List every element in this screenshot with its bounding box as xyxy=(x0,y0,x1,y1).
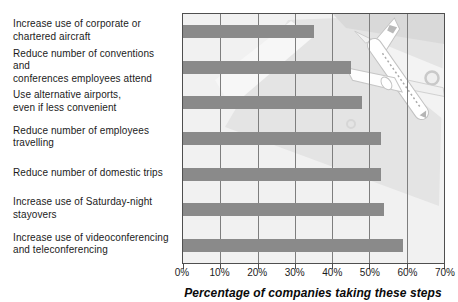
category-label: Use alternative airports, even if less c… xyxy=(13,84,174,120)
bar xyxy=(183,96,362,109)
grommet-icon xyxy=(426,72,439,85)
x-tick-label: 60% xyxy=(397,267,417,278)
category-label-text: Reduce number of domestic trips xyxy=(13,167,163,180)
x-tick-label: 30% xyxy=(285,267,305,278)
category-label-text: Reduce number of employees travelling xyxy=(13,125,149,150)
x-tick-label: 20% xyxy=(247,267,267,278)
bar-chart-figure: Increase use of corporate or chartered a… xyxy=(0,0,458,302)
category-label-text: Reduce number of conventions and confere… xyxy=(13,48,174,86)
gridline xyxy=(407,14,408,263)
category-label: Reduce number of domestic trips xyxy=(13,155,174,191)
category-labels: Increase use of corporate or chartered a… xyxy=(0,13,178,262)
bar xyxy=(183,168,381,181)
category-label: Reduce number of employees travelling xyxy=(13,120,174,156)
category-label: Increase use of Saturday-night stayovers xyxy=(13,191,174,227)
x-tick-label: 0% xyxy=(175,267,189,278)
x-axis-ticks: 0%10%20%30%40%50%60%70% xyxy=(182,267,445,280)
category-label-text: Increase use of Saturday-night stayovers xyxy=(13,196,152,221)
bar xyxy=(183,239,403,252)
category-label-text: Increase use of corporate or chartered a… xyxy=(13,18,141,43)
x-axis-label: Percentage of companies taking these ste… xyxy=(184,286,442,300)
x-tick-label: 70% xyxy=(435,267,455,278)
category-label-text: Use alternative airports, even if less c… xyxy=(13,89,121,114)
bar xyxy=(183,132,381,145)
bar xyxy=(183,25,314,38)
x-tick-label: 50% xyxy=(360,267,380,278)
plot-area xyxy=(182,13,445,264)
x-axis-label-row: Percentage of companies taking these ste… xyxy=(178,283,448,301)
category-label: Increase use of corporate or chartered a… xyxy=(13,13,174,49)
category-label: Reduce number of conventions and confere… xyxy=(13,49,174,85)
bar xyxy=(183,61,351,74)
x-tick-label: 40% xyxy=(322,267,342,278)
category-label-text: Increase use of videoconferencing and te… xyxy=(13,232,169,257)
bar xyxy=(183,203,384,216)
x-tick-label: 10% xyxy=(210,267,230,278)
category-label: Increase use of videoconferencing and te… xyxy=(13,226,174,262)
